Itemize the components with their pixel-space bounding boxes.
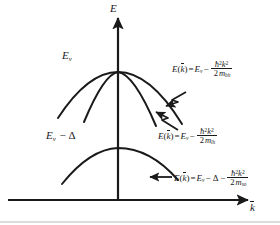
- light-hole-equation: E(k)=Ev−ħ2k22mlh: [158, 127, 218, 146]
- eq2-delta: Δ −: [212, 173, 227, 183]
- wavevector-axis-label: k: [250, 202, 255, 213]
- eq0-k-sup: 2: [226, 59, 229, 65]
- eq1-numerator: ħ2k2: [197, 127, 218, 136]
- eq2-numerator: ħ2k2: [227, 169, 248, 178]
- eq2-fraction: ħ2k22mso: [227, 169, 248, 188]
- eq1-k-sup: 2: [211, 126, 214, 132]
- k-axis-base: k: [250, 201, 255, 213]
- light-hole-curve: [84, 72, 156, 126]
- eq2-equals: =: [190, 173, 197, 183]
- figure-root: E k Ev Ev − Δ E(k)=Ev−ħ2k22mhh E(k)=Ev−ħ…: [0, 0, 280, 225]
- eq1-denominator: 2mlh: [197, 135, 218, 145]
- eq0-numerator: ħ2k2: [211, 60, 233, 69]
- eq1-fraction: ħ2k22mlh: [197, 127, 218, 146]
- eq1-arg: k: [167, 131, 171, 141]
- eq1-equals: =: [174, 131, 181, 141]
- split-off-curve: [62, 148, 178, 184]
- heavy-hole-equation: E(k)=Ev−ħ2k22mhh: [172, 60, 233, 79]
- eq2-arg: k: [183, 173, 187, 183]
- eq0-arg: k: [181, 64, 185, 74]
- split-off-equation: E(k)=Ev−Δ −ħ2k22mso: [174, 169, 249, 188]
- eq2-k-sup: 2: [242, 168, 245, 174]
- eq2-den-sub: so: [242, 181, 247, 187]
- eq0-minus: −: [203, 64, 210, 74]
- overbar-k-axis: [250, 201, 254, 202]
- eq0-den-sub: hh: [225, 72, 230, 78]
- eq2-denominator: 2mso: [227, 177, 248, 187]
- eq0-overbar: [181, 63, 184, 64]
- split-off-energy-label: Ev − Δ: [46, 130, 77, 142]
- eq0-fraction: ħ2k22mhh: [211, 60, 233, 79]
- eq2-minus: −: [205, 173, 212, 183]
- valence-band-edge-label: Ev: [62, 50, 72, 62]
- eq0-equals: =: [188, 64, 195, 74]
- eq1-overbar: [167, 130, 170, 131]
- ev-delta-base: E: [46, 129, 53, 141]
- eq1-minus: −: [189, 131, 196, 141]
- ev-subscript: v: [69, 55, 72, 62]
- eq0-denominator: 2mhh: [211, 68, 233, 78]
- eq2-overbar: [183, 172, 186, 173]
- ev-delta-suffix: − Δ: [56, 129, 77, 141]
- energy-axis-label: E: [110, 3, 117, 14]
- band-diagram-canvas: [0, 0, 280, 225]
- eq1-den-sub: lh: [211, 139, 215, 145]
- ev-base: E: [62, 49, 69, 61]
- k-overbar-wrap: k: [250, 202, 255, 213]
